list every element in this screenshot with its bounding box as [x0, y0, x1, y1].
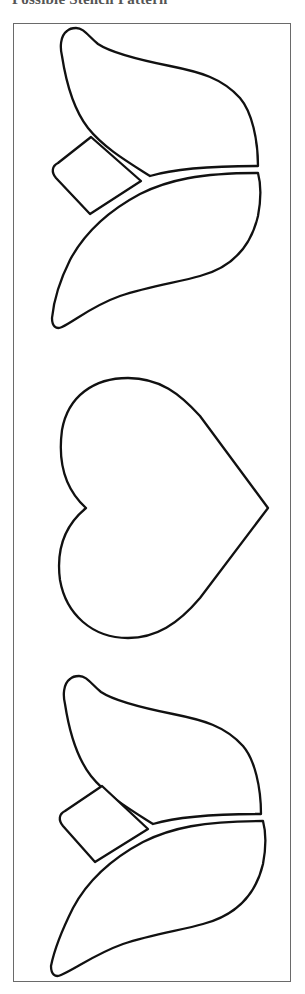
heart: [59, 378, 268, 638]
stencil-pattern-artwork: [0, 0, 305, 994]
heart-shape: [59, 378, 268, 638]
tulip-bottom: [51, 676, 265, 976]
tulip-top: [52, 28, 260, 328]
